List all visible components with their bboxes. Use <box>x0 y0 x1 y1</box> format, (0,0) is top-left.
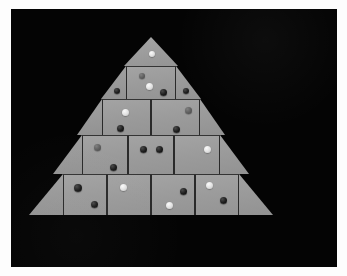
stud-light-icon <box>149 51 155 57</box>
tile-row-1 <box>124 37 178 66</box>
stud-dark-icon <box>156 146 163 153</box>
tile-row-2 <box>101 66 201 99</box>
row5-square-4[interactable] <box>195 174 239 215</box>
stud-dark-icon <box>110 164 117 171</box>
stud-mid-icon <box>139 73 145 79</box>
stud-light-icon <box>206 182 213 189</box>
stud-light-icon <box>166 202 173 209</box>
row3-left-triangle[interactable] <box>77 99 102 135</box>
photo-plate <box>11 9 337 267</box>
tile-assembly <box>11 9 337 267</box>
stud-dark-icon <box>91 201 98 208</box>
row4-square-1[interactable] <box>82 135 128 174</box>
stud-dark-icon <box>220 197 227 204</box>
stud-dark-icon <box>140 146 147 153</box>
stud-light-icon <box>122 109 129 116</box>
stud-mid-icon <box>185 107 192 114</box>
row4-right-triangle[interactable] <box>220 135 249 174</box>
stud-mid-icon <box>94 144 101 151</box>
row5-square-1[interactable] <box>63 174 107 215</box>
apex-triangle[interactable] <box>124 37 178 66</box>
stud-light-icon <box>120 184 127 191</box>
stud-dark-icon <box>183 88 189 94</box>
tile-row-4 <box>53 135 249 174</box>
stud-dark-icon <box>74 184 82 192</box>
row5-square-3[interactable] <box>151 174 195 215</box>
row4-square-2[interactable] <box>128 135 174 174</box>
row4-left-triangle[interactable] <box>53 135 82 174</box>
stud-dark-icon <box>114 88 120 94</box>
row3-square-1[interactable] <box>102 99 151 135</box>
row4-square-3[interactable] <box>174 135 220 174</box>
stud-dark-icon <box>117 125 124 132</box>
stud-dark-icon <box>173 126 180 133</box>
row2-right-triangle[interactable] <box>176 66 201 99</box>
stud-dark-icon <box>160 89 167 96</box>
row5-square-2[interactable] <box>107 174 151 215</box>
tile-row-5 <box>29 174 273 215</box>
row3-square-2[interactable] <box>151 99 200 135</box>
screenshot-canvas <box>0 0 347 276</box>
row5-right-triangle[interactable] <box>239 174 273 215</box>
row3-right-triangle[interactable] <box>200 99 225 135</box>
row2-square-1[interactable] <box>126 66 176 99</box>
stud-light-icon <box>146 83 153 90</box>
row2-left-triangle[interactable] <box>101 66 126 99</box>
stud-light-icon <box>204 146 211 153</box>
stud-dark-icon <box>180 188 187 195</box>
tile-row-3 <box>77 99 225 135</box>
row5-left-triangle[interactable] <box>29 174 63 215</box>
